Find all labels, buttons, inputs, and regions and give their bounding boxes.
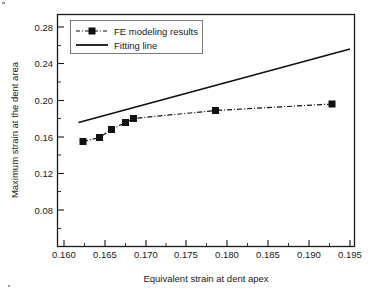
x-axis-ticks — [64, 240, 350, 246]
x-tick-label: 0.195 — [338, 249, 362, 260]
x-axis-title: Equivalent strain at dent apex — [143, 273, 268, 284]
x-axis-tick-labels: 0.160 0.165 0.170 0.175 0.180 0.185 0.19… — [52, 249, 362, 260]
y-axis-ticks — [58, 27, 64, 229]
chart-figure: 0.160 0.165 0.170 0.175 0.180 0.185 0.19… — [0, 0, 373, 294]
x-tick-label: 0.175 — [174, 249, 198, 260]
data-point-marker — [80, 138, 87, 145]
x-tick-label: 0.185 — [256, 249, 280, 260]
data-point-marker — [130, 115, 137, 122]
legend-label-fitting-line: Fitting line — [114, 40, 157, 51]
data-point-marker — [329, 101, 336, 108]
x-tick-label: 0.180 — [215, 249, 239, 260]
y-tick-label: 0.08 — [35, 205, 54, 216]
scan-artifact — [2, 2, 5, 4]
data-point-marker — [122, 119, 129, 126]
y-tick-label: 0.16 — [35, 132, 54, 143]
x-tick-label: 0.170 — [134, 249, 158, 260]
y-tick-label: 0.24 — [35, 58, 54, 69]
x-tick-label: 0.190 — [297, 249, 321, 260]
data-point-marker — [108, 126, 115, 133]
legend-square-marker-icon — [89, 28, 96, 35]
y-tick-label: 0.20 — [35, 95, 54, 106]
data-point-marker — [212, 107, 219, 114]
y-tick-label: 0.12 — [35, 168, 54, 179]
y-tick-label: 0.28 — [35, 22, 54, 33]
scatter-chart: 0.160 0.165 0.170 0.175 0.180 0.185 0.19… — [0, 0, 373, 294]
y-axis-tick-labels: 0.08 0.12 0.16 0.20 0.24 0.28 — [35, 22, 54, 216]
x-tick-label: 0.165 — [93, 249, 117, 260]
fe-modeling-markers — [80, 101, 336, 146]
legend-label-fe-modeling: FE modeling results — [114, 26, 198, 37]
chart-legend: FE modeling results Fitting line — [71, 21, 203, 54]
y-axis-title: Maximum strain at the dent area — [9, 61, 20, 198]
x-tick-label: 0.160 — [52, 249, 76, 260]
data-point-marker — [96, 134, 103, 141]
scan-artifact — [8, 285, 10, 287]
fe-modeling-line — [83, 104, 332, 142]
